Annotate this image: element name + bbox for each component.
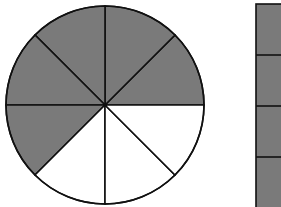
fraction-circle xyxy=(6,6,204,204)
fraction-diagram xyxy=(0,0,281,207)
fraction-bar xyxy=(256,4,281,207)
